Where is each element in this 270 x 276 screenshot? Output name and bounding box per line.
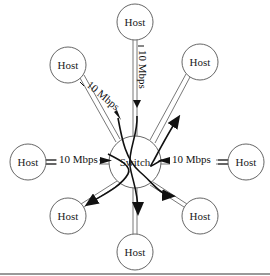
host-top-left[interactable]: Host — [50, 47, 86, 83]
host-top[interactable]: Host — [117, 4, 153, 40]
rate-label-top-left: 10 Mbps — [85, 78, 122, 112]
svg-text:Host: Host — [125, 246, 146, 258]
host-left[interactable]: Host — [10, 144, 46, 180]
network-diagram: Switch 10 Mbps 10 Mbps 10 Mbps 10 — [0, 0, 270, 276]
rate-label-right: 10 Mbps — [172, 153, 211, 165]
svg-text:Host: Host — [236, 156, 257, 168]
svg-text:Host: Host — [58, 59, 79, 71]
svg-text:Host: Host — [18, 156, 39, 168]
host-bottom[interactable]: Host — [117, 234, 153, 270]
rate-label-left: 10 Mbps — [59, 153, 98, 165]
svg-text:Host: Host — [125, 16, 146, 28]
host-bottom-right[interactable]: Host — [182, 198, 218, 234]
host-bottom-left[interactable]: Host — [50, 198, 86, 234]
rate-label-top: 10 Mbps — [137, 50, 149, 89]
svg-text:Host: Host — [190, 56, 211, 68]
host-top-right[interactable]: Host — [182, 44, 218, 80]
svg-text:Host: Host — [58, 210, 79, 222]
svg-text:Host: Host — [190, 210, 211, 222]
host-right[interactable]: Host — [228, 144, 264, 180]
top-arrowhead — [133, 100, 141, 108]
